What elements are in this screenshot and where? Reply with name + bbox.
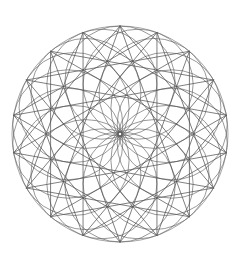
- rosette-figure: Geometric Rosette Pattern: [0, 0, 240, 262]
